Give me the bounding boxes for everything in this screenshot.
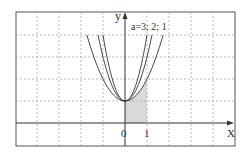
curve-parameter-label: a=3; 2; 1 (131, 21, 167, 32)
x-axis-label: X (227, 127, 235, 139)
tick-label-1: 1 (144, 127, 150, 139)
y-axis-label: y (115, 9, 121, 23)
origin-label: 0 (121, 127, 127, 139)
parabola-graph: y X 0 1 a=3; 2; 1 (0, 0, 248, 157)
